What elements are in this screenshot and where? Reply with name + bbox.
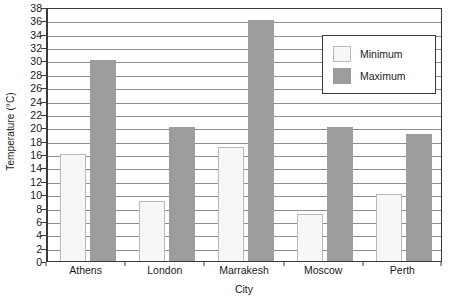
y-tick-label: 38 (18, 3, 42, 14)
x-tick-label-marrakesh: Marrakesh (219, 264, 269, 276)
y-axis-title: Temperature (°C) (0, 0, 20, 262)
y-tick-label: 30 (18, 56, 42, 67)
legend-item-minimum: Minimum (333, 43, 435, 65)
legend-swatch-minimum-icon (333, 46, 351, 62)
legend-item-maximum: Maximum (333, 65, 435, 87)
y-tick-label: 2 (18, 243, 42, 254)
y-tick-label: 32 (18, 43, 42, 54)
y-tick-label: 24 (18, 96, 42, 107)
y-tick-label: 14 (18, 163, 42, 174)
x-axis-title: City (46, 283, 442, 295)
bar-athens-maximum (90, 60, 116, 261)
y-tick-label: 8 (18, 203, 42, 214)
bar-london-minimum (139, 201, 165, 261)
legend-label-minimum: Minimum (360, 48, 403, 60)
y-tick-label: 26 (18, 83, 42, 94)
bar-perth-minimum (376, 194, 402, 261)
x-tick-label-london: London (147, 264, 182, 276)
x-tick-label-athens: Athens (69, 264, 102, 276)
y-axis-title-text: Temperature (°C) (5, 92, 16, 170)
bar-marrakesh-maximum (248, 20, 274, 261)
bar-moscow-maximum (327, 127, 353, 261)
bar-chart: Temperature (°C) 02468101214161820222426… (0, 0, 452, 308)
y-tick-label: 0 (18, 257, 42, 268)
legend-swatch-maximum-icon (333, 68, 351, 84)
y-tick-label: 22 (18, 110, 42, 121)
y-tick-label: 6 (18, 217, 42, 228)
y-tick-label: 16 (18, 150, 42, 161)
legend-label-maximum: Maximum (360, 70, 406, 82)
y-tick-label: 34 (18, 29, 42, 40)
y-axis-tick-labels: 02468101214161820222426283032343638 (18, 8, 42, 262)
bar-athens-minimum (60, 154, 86, 261)
y-tick-label: 12 (18, 177, 42, 188)
chart-legend: Minimum Maximum (322, 35, 436, 94)
bar-perth-maximum (406, 134, 432, 261)
bar-moscow-minimum (297, 214, 323, 261)
bar-marrakesh-minimum (218, 147, 244, 261)
y-tick-label: 20 (18, 123, 42, 134)
x-tick-label-perth: Perth (390, 264, 415, 276)
x-axis-tick-labels: AthensLondonMarrakeshMoscowPerth (46, 264, 442, 280)
y-tick-label: 28 (18, 70, 42, 81)
y-tick-label: 10 (18, 190, 42, 201)
x-tick-label-moscow: Moscow (304, 264, 343, 276)
bar-london-maximum (169, 127, 195, 261)
y-tick-label: 4 (18, 230, 42, 241)
y-tick-label: 18 (18, 136, 42, 147)
y-tick-label: 36 (18, 16, 42, 27)
